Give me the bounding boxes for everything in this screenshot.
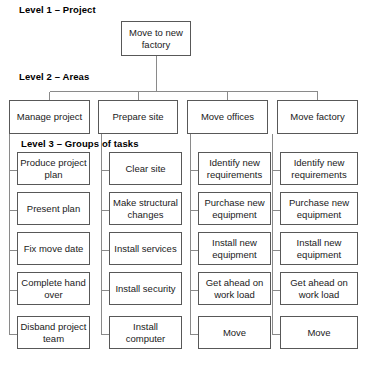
node-task[interactable]: Purchase new equipment [198, 192, 271, 225]
node-project-root[interactable]: Move to new factory [121, 21, 191, 56]
node-label: Complete hand over [20, 277, 87, 300]
node-task[interactable]: Get ahead on work load [198, 272, 271, 305]
node-task[interactable]: Install computer [109, 316, 182, 349]
node-label: Move [223, 327, 246, 339]
node-label: Fix move date [24, 243, 84, 255]
level-1-caption: Level 1 – Project [19, 4, 96, 15]
node-label: Move to new factory [124, 27, 188, 50]
node-task[interactable]: Produce project plan [17, 152, 90, 185]
node-label: Clear site [125, 163, 165, 175]
node-task[interactable]: Complete hand over [17, 272, 90, 305]
node-label: Make structural changes [112, 197, 179, 220]
level-2-caption: Level 2 – Areas [19, 71, 89, 82]
node-task[interactable]: Install services [109, 232, 182, 265]
node-label: Prepare site [112, 111, 163, 123]
node-label: Identify new requirements [201, 157, 268, 180]
node-label: Install new equipment [201, 237, 268, 260]
node-label: Purchase new equipment [283, 197, 355, 220]
node-task[interactable]: Clear site [109, 152, 182, 185]
node-label: Install computer [112, 321, 179, 344]
node-label: Install new equipment [283, 237, 355, 260]
wbs-diagram: Level 1 – Project Level 2 – Areas Level … [0, 0, 378, 365]
node-label: Get ahead on work load [201, 277, 268, 300]
node-label: Disband project team [20, 321, 87, 344]
node-label: Move factory [290, 111, 344, 123]
node-label: Install services [114, 243, 176, 255]
node-task[interactable]: Disband project team [17, 316, 90, 349]
node-area-move-offices[interactable]: Move offices [187, 100, 268, 134]
node-task[interactable]: Move [198, 316, 271, 349]
node-area-manage-project[interactable]: Manage project [9, 100, 90, 134]
node-task[interactable]: Install new equipment [198, 232, 271, 265]
node-task[interactable]: Install security [109, 272, 182, 305]
node-label: Get ahead on work load [283, 277, 355, 300]
node-task[interactable]: Install new equipment [280, 232, 358, 265]
node-task[interactable]: Identify new requirements [198, 152, 271, 185]
node-label: Install security [115, 283, 175, 295]
node-task[interactable]: Move [280, 316, 358, 349]
node-label: Move offices [201, 111, 254, 123]
node-task[interactable]: Present plan [17, 192, 90, 225]
node-label: Move [307, 327, 330, 339]
level-3-caption: Level 3 – Groups of tasks [21, 138, 139, 149]
node-label: Purchase new equipment [201, 197, 268, 220]
node-task[interactable]: Get ahead on work load [280, 272, 358, 305]
node-label: Identify new requirements [283, 157, 355, 180]
node-task[interactable]: Make structural changes [109, 192, 182, 225]
node-task[interactable]: Identify new requirements [280, 152, 358, 185]
node-area-prepare-site[interactable]: Prepare site [98, 100, 178, 134]
node-task[interactable]: Fix move date [17, 232, 90, 265]
node-label: Produce project plan [20, 157, 87, 180]
node-label: Present plan [27, 203, 80, 215]
node-area-move-factory[interactable]: Move factory [277, 100, 358, 134]
node-task[interactable]: Purchase new equipment [280, 192, 358, 225]
node-label: Manage project [17, 111, 82, 123]
